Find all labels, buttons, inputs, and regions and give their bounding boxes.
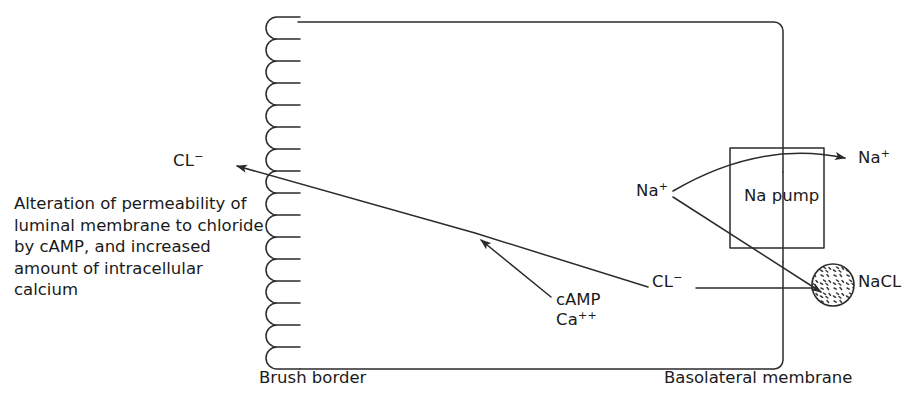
sodium-to-nacl-arrow	[673, 197, 821, 292]
calcium-label-text: Ca	[556, 310, 578, 329]
chloride-label-right-text: CL	[652, 272, 673, 291]
camp-calcium-arrow	[481, 240, 551, 297]
chloride-label-right-charge: −	[673, 271, 682, 284]
cell-outline-top	[298, 22, 783, 172]
sodium-label-intracellular-text: Na	[636, 181, 659, 200]
calcium-label-charge: ++	[578, 309, 597, 322]
nacl-label: NaCL	[858, 274, 901, 291]
sodium-label-extracellular-charge: +	[881, 147, 890, 160]
cell-outline-bottom	[300, 262, 783, 369]
chloride-label-left-charge: −	[194, 150, 203, 163]
sodium-label-intracellular-charge: +	[659, 180, 668, 193]
sodium-label-extracellular-text: Na	[858, 148, 881, 167]
na-pump-label: Na pump	[744, 188, 819, 205]
brush-border-microvilli	[266, 17, 300, 369]
basolateral-membrane-label: Basolateral membrane	[664, 370, 852, 387]
permeability-description-text: Alteration of permeability of luminal me…	[14, 193, 264, 301]
chloride-label-left-text: CL	[173, 151, 194, 170]
diagram-canvas: Alteration of permeability of luminal me…	[0, 0, 920, 410]
sodium-label-extracellular: Na+	[858, 150, 890, 167]
calcium-label: Ca++	[556, 312, 597, 329]
nacl-vesicle	[812, 264, 854, 306]
chloride-label-left: CL−	[173, 153, 204, 170]
chloride-label-right: CL−	[652, 274, 683, 291]
brush-border-label: Brush border	[259, 370, 366, 387]
chloride-efflux-arrow	[237, 166, 648, 287]
sodium-label-intracellular: Na+	[636, 183, 668, 200]
camp-label: cAMP	[556, 292, 601, 309]
